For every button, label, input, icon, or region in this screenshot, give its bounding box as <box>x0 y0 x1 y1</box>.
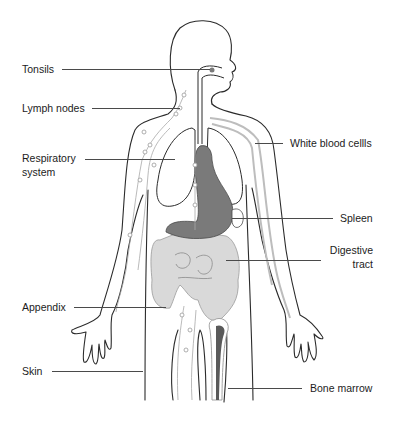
leader-tonsils <box>62 69 210 70</box>
label-tonsils: Tonsils <box>22 63 54 76</box>
body-diagram <box>0 0 395 435</box>
label-digestive-line1: Digestive <box>330 244 373 257</box>
leader-skin <box>52 371 143 372</box>
label-bone-marrow: Bone marrow <box>310 382 372 395</box>
label-lymph-nodes: Lymph nodes <box>22 102 85 115</box>
leader-respiratory <box>85 159 175 160</box>
leader-bone-marrow <box>228 388 302 389</box>
body-outline <box>72 21 323 402</box>
label-digestive-line2: tract <box>353 258 373 271</box>
leader-appendix <box>74 307 166 308</box>
label-appendix: Appendix <box>22 301 66 314</box>
label-spleen: Spleen <box>340 212 373 225</box>
label-skin: Skin <box>22 365 42 378</box>
leader-spleen <box>232 218 333 219</box>
leader-digestive <box>226 260 321 261</box>
tonsil <box>210 68 215 73</box>
leader-lymph-nodes <box>92 108 180 109</box>
label-respiratory-line1: Respiratory <box>22 152 76 165</box>
label-respiratory-line2: system <box>22 166 55 179</box>
leader-white-blood-cells <box>255 143 283 144</box>
label-white-blood-cells: White blood cellls <box>290 137 372 150</box>
